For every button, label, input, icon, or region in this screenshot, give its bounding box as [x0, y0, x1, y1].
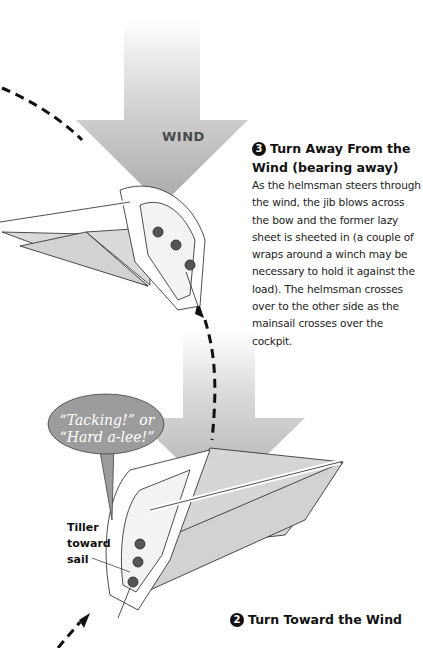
boat-lower [106, 448, 343, 618]
tiller-label: Tiller toward sail [67, 520, 127, 568]
step-2-number-icon: 2 [230, 613, 244, 627]
path-arrowhead-lower [79, 613, 90, 628]
step-3-caption: 3Turn Away From the Wind (bearing away) … [252, 139, 423, 350]
step-2-heading: 2Turn Toward the Wind [230, 610, 402, 629]
wind-label: WIND [162, 129, 205, 144]
boat-upper [0, 186, 205, 310]
step-3-title: Turn Away From the Wind (bearing away) [252, 141, 410, 175]
step-2-title: Turn Toward the Wind [248, 612, 402, 627]
callout-text: “Tacking!” or “Hard a-lee!” [58, 412, 156, 446]
step-3-number-icon: 3 [252, 142, 266, 156]
step-3-body: As the helmsman steers through the wind,… [252, 177, 423, 350]
wind-arrow-top [76, 20, 248, 205]
step-3-heading: 3Turn Away From the Wind (bearing away) [252, 139, 423, 177]
